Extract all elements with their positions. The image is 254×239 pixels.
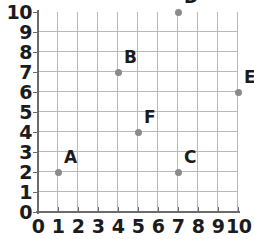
y-tick-label: 7 <box>0 61 32 83</box>
x-tick-mark <box>118 207 119 212</box>
y-tick-label: 0 <box>0 201 32 223</box>
data-point-e[interactable] <box>235 89 242 96</box>
y-tick-mark <box>33 72 38 73</box>
x-tick-mark <box>218 207 219 212</box>
point-label-f: F <box>144 109 156 126</box>
y-tick-label: 1 <box>0 181 32 203</box>
x-tick-mark <box>198 207 199 212</box>
x-tick-mark <box>78 207 79 212</box>
x-tick-mark <box>58 207 59 212</box>
y-tick-label: 6 <box>0 81 32 103</box>
point-label-e: E <box>244 69 254 86</box>
y-tick-mark <box>33 112 38 113</box>
data-point-f[interactable] <box>135 129 142 136</box>
y-tick-label: 5 <box>0 101 32 123</box>
y-tick-mark <box>33 52 38 53</box>
data-point-d[interactable] <box>175 9 182 16</box>
point-label-d: D <box>184 0 198 6</box>
y-tick-label: 9 <box>0 21 32 43</box>
grid-area <box>38 12 238 212</box>
x-tick-label: 10 <box>226 215 250 237</box>
point-label-c: C <box>184 149 196 166</box>
x-tick-mark <box>38 207 39 212</box>
y-tick-label: 3 <box>0 141 32 163</box>
y-tick-mark <box>33 152 38 153</box>
x-tick-mark <box>98 207 99 212</box>
y-tick-mark <box>33 212 38 213</box>
data-point-b[interactable] <box>115 69 122 76</box>
x-tick-mark <box>178 207 179 212</box>
y-tick-label: 10 <box>0 1 32 23</box>
x-tick-mark <box>158 207 159 212</box>
point-label-a: A <box>64 149 77 166</box>
x-tick-mark <box>238 207 239 212</box>
y-tick-mark <box>33 192 38 193</box>
y-tick-label: 8 <box>0 41 32 63</box>
x-tick-mark <box>138 207 139 212</box>
data-point-c[interactable] <box>175 169 182 176</box>
y-tick-mark <box>33 12 38 13</box>
y-tick-mark <box>33 92 38 93</box>
y-tick-label: 2 <box>0 161 32 183</box>
coordinate-plane: 012345678910 012345678910 ABCDEF <box>0 0 254 239</box>
y-tick-mark <box>33 132 38 133</box>
y-tick-mark <box>33 172 38 173</box>
data-point-a[interactable] <box>55 169 62 176</box>
point-label-b: B <box>124 49 137 66</box>
y-tick-label: 4 <box>0 121 32 143</box>
y-tick-mark <box>33 32 38 33</box>
